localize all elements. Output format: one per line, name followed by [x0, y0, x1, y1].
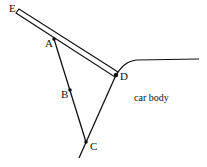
- label-A: A: [45, 37, 53, 49]
- label-B: B: [61, 88, 68, 100]
- car-body-outline: [116, 59, 199, 75]
- joint-D: [114, 73, 118, 77]
- label-C: C: [90, 140, 97, 152]
- linkage-diagram: E A B C D car body: [0, 0, 207, 167]
- label-E: E: [9, 2, 16, 14]
- label-D: D: [120, 70, 128, 82]
- rod-ED: [16, 9, 118, 77]
- link-DC: [79, 75, 116, 158]
- label-car-body: car body: [134, 92, 169, 103]
- joint-B: [68, 88, 72, 92]
- joint-C: [84, 140, 88, 144]
